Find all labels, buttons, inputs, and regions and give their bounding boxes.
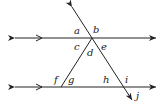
angle-label-a: a bbox=[74, 25, 80, 36]
angle-label-e: e bbox=[101, 41, 107, 52]
angle-label-h: h bbox=[103, 74, 109, 85]
angle-label-j: j bbox=[134, 90, 139, 101]
angle-label-f: f bbox=[53, 74, 60, 85]
top-parallel-line bbox=[15, 35, 156, 41]
angle-label-d: d bbox=[87, 47, 93, 58]
parallel-lines-diagram: a b c d e f g h i j bbox=[0, 0, 168, 109]
angle-label-c: c bbox=[74, 41, 80, 52]
transversal-line bbox=[72, 7, 132, 100]
angle-label-g: g bbox=[68, 74, 74, 85]
angle-label-b: b bbox=[93, 24, 99, 35]
bottom-parallel-line bbox=[15, 84, 156, 90]
angle-label-i: i bbox=[125, 74, 128, 85]
